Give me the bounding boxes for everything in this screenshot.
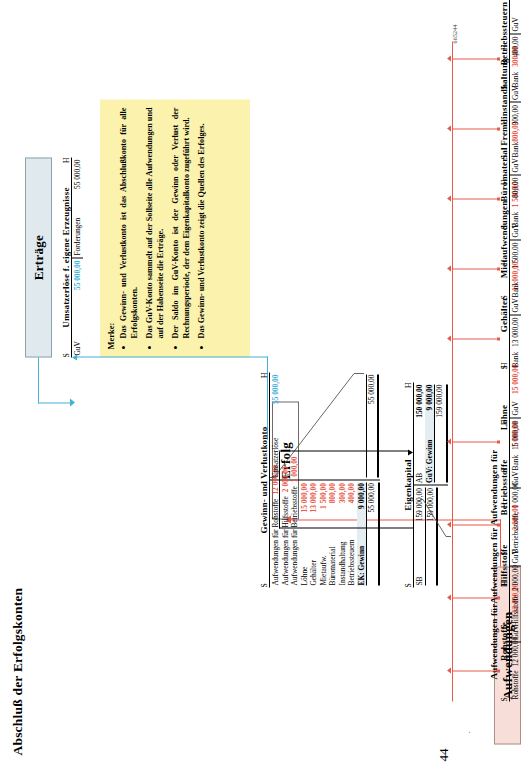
entry-label: Bank [511,207,521,227]
account-row: Instandhaltung 300,00 [338,483,348,586]
account-row: GuV: Gewinn 9 000,00 [425,384,435,483]
account-title: Löhne [499,372,509,462]
entry-label: Bank [511,347,521,367]
account-header: S Umsatzerlöse f. eigene Erzeugnisse H [60,157,72,357]
soll-label: S [500,618,509,628]
entry-label: Löhne [300,562,310,585]
arrow-erfolg-to-ertraege-head [70,398,75,406]
connector-stub [452,198,500,199]
soll-side: Bank 15 000,00 [510,417,521,472]
total-amount: 55 000,00 [367,483,377,513]
haben-side: GuV 15 000,00 [510,362,521,417]
soll-side: Bank 800,00 [510,174,521,229]
connector-stub [452,58,500,59]
connector-node [497,57,500,60]
account-row: Betriebsstoffe 1 000,00 [511,490,521,553]
page-number: 44 [436,748,452,761]
eigenkapital-balance-diagonal [418,497,452,539]
entry-label: Bank [511,67,521,87]
connector-arrowhead [447,335,451,341]
soll-side: Hilfsstoffe 2 000,00 [510,565,521,628]
entry-amount: 9 000,00 [425,384,435,410]
entry-label: SB [415,572,425,585]
account-row: Hilfsstoffe 2 000,00 [511,568,521,626]
arrow-erfolg-to-ertraege-down [38,402,71,403]
entry-label: Rohstoffe [511,666,521,699]
soll-label: S [62,347,71,357]
entry-amount: 55 000,00 [73,260,83,290]
account-row: AB 150 000,00 [415,384,425,483]
account-title: Umsatzerlöse f. eigene Erzeugnisse [61,167,71,347]
connector-stub [452,441,500,442]
entry-amount: 9 000,00 [357,483,367,509]
page-id: 665244 [452,24,458,43]
entry-label: Forderungen [73,213,83,255]
account-row: Aufwendungen für Hilfsstoffe 2 000,00 [281,483,291,586]
total-label [367,581,377,585]
account-row: Löhne 15 000,00 [300,483,310,586]
account-body: GuV 55 000,00 Forderungen 55 000,00 [72,157,83,357]
soll-side: Aufwendungen für Rohstoffe 12 000,00 Auf… [270,480,380,588]
total-label [426,581,436,585]
entry-amount: 55 000,00 [73,159,83,189]
guv-balance-diagonal [268,371,366,479]
entry-amount: 400,00 [511,36,521,56]
connector-gewinn-arrowhead [408,449,413,455]
connector-node [497,669,500,672]
account-title: Eigenkapital [403,392,413,577]
entry-label: GuV [511,397,521,415]
account-row: Gehälter 13 000,00 [309,483,319,586]
account-row: Bank 300,00 [511,105,521,158]
connector-node [497,596,500,599]
account-betriebssteuern: S Betriebssteuern H Bank 400,00 GuV 400,… [498,0,521,89]
entry-label: Bank [511,137,521,157]
account-eigenkapital: S Eigenkapital H SB 159 000,00 159 000,0… [402,382,448,587]
entry-label: Hilfsstoffe [511,591,521,626]
account-header: S Löhne H [498,362,510,472]
entry-label: Büromaterial [328,542,338,585]
connector-stub [452,597,500,598]
entry-amount: 150 000,00 [415,384,425,417]
total-amount: 159 000,00 [435,384,445,417]
soll-label: S [500,79,509,89]
merke-item: Das GuV-Konto sammelt auf der Sollseite … [145,107,166,349]
soll-side: Bank 13 000,00 [510,314,521,369]
account-row: Betriebssteuern 400,00 [347,483,357,586]
account-row: Mietaufw. 1 500,00 [319,483,329,586]
account-row: Bank 800,00 [511,177,521,227]
entry-label: Aufwendungen für Hilfsstoffe [281,492,291,585]
account-total-row: 55 000,00 [366,374,377,478]
haben-side: GuV 400,00 [510,0,521,33]
banner-ertraege: Erträge [25,157,52,357]
connector-node [497,127,500,130]
arrow-erfolg-to-ertraege-line [38,357,39,403]
entry-label: Instandhaltung [338,537,348,585]
connector-bus-horizontal [452,41,453,701]
account-row: Bank 400,00 [511,36,521,87]
haben-label: H [62,157,71,167]
merke-item: Der Saldo im GuV-Konto ist der Gewinn od… [171,107,192,349]
account-body: Bank 15 000,00 GuV 15 000,00 [510,362,521,472]
connector-stub [452,524,500,525]
soll-side: Bank 1 500,00 [510,239,521,299]
account-row: Aufwendungen für Betriebsstoffe 1 000,00 [290,483,300,586]
account-title: Betriebssteuern [499,0,509,79]
total-amount: 55 000,00 [367,374,377,404]
entry-label: Bank [511,450,521,470]
connector-node [497,197,500,200]
entry-amount: 300,00 [338,483,348,503]
connector-node [497,267,500,270]
entry-label: Mietaufw. [319,551,329,585]
connector-gewinn-vertical-right [279,450,409,451]
account-header: S Betriebssteuern H [498,0,510,89]
page-title: Abschluß der Erfolgskonten [10,587,26,755]
entry-label: Betriebsstoffe [511,508,521,553]
entry-label: GuV [73,337,83,355]
account-body: SB 159 000,00 159 000,00 AB 150 000,00 G… [414,382,448,587]
entry-amount: 13 000,00 [511,317,521,347]
entry-label: GuV [511,13,521,31]
entry-amount: 15 000,00 [511,420,521,450]
account-total-row: 159 000,00 [434,384,445,483]
merke-item: Das Gewinn- und Verlustkonto ist das Abs… [119,107,140,349]
merke-heading: Merke: [106,107,116,349]
